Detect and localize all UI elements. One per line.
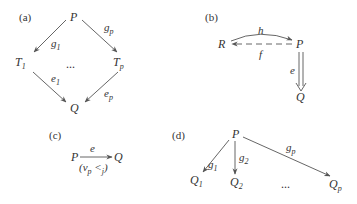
- edge-a-g1: [34, 20, 66, 52]
- panel-a-label: (a): [19, 11, 32, 24]
- node-c-Q: Q: [114, 150, 123, 164]
- panel-a: (a) P T1 Tp ... Q g1 gp e1 ep: [15, 10, 124, 115]
- edge-b-e: [296, 52, 306, 91]
- edge-a-e1: [33, 72, 66, 102]
- node-a-T1: T1: [15, 55, 26, 71]
- panel-d-label: (d): [172, 129, 185, 142]
- node-d-Q1: Q1: [190, 173, 203, 189]
- node-d-Qp: Qp: [329, 177, 342, 193]
- edge-label-a-gp: gp: [104, 21, 114, 36]
- node-d-Q2: Q2: [230, 175, 243, 191]
- node-c-P: P: [70, 150, 79, 164]
- panel-b: (b) R P Q h f e: [205, 11, 306, 104]
- edge-label-a-e1: e1: [51, 72, 60, 87]
- edge-label-b-e: e: [290, 64, 295, 76]
- edge-label-d-gp: gp: [286, 141, 296, 156]
- node-d-P: P: [231, 127, 240, 141]
- ellipsis-a: ...: [66, 57, 75, 71]
- edge-annotation-c: (vp <j): [79, 161, 108, 176]
- edge-label-d-g1: g1: [208, 158, 218, 173]
- edge-label-b-h: h: [258, 24, 264, 36]
- node-a-P: P: [69, 10, 78, 24]
- edge-label-d-g2: g2: [239, 151, 249, 166]
- edge-label-a-ep: ep: [104, 87, 113, 102]
- node-b-Q: Q: [296, 90, 305, 104]
- diagram-canvas: (a) P T1 Tp ... Q g1 gp e1 ep (b) R P Q …: [0, 0, 357, 204]
- edge-label-b-f: f: [259, 48, 264, 60]
- node-a-Q: Q: [70, 101, 79, 115]
- panel-c-label: (c): [49, 129, 62, 142]
- panel-d: (d) P Q1 Q2 ... Qp g1 g2 gp: [172, 127, 342, 193]
- edge-label-c-e: e: [90, 142, 95, 154]
- diagram-svg: (a) P T1 Tp ... Q g1 gp e1 ep (b) R P Q …: [0, 0, 357, 204]
- edge-a-gp: [82, 20, 117, 52]
- edge-label-a-g1: g1: [51, 37, 61, 52]
- node-b-P: P: [295, 37, 304, 51]
- ellipsis-d: ...: [281, 177, 290, 191]
- panel-b-label: (b): [205, 11, 218, 24]
- node-b-R: R: [217, 37, 226, 51]
- node-a-Tp: Tp: [113, 55, 124, 71]
- edge-a-ep: [85, 72, 118, 102]
- panel-c: (c) P Q e (vp <j): [49, 129, 123, 176]
